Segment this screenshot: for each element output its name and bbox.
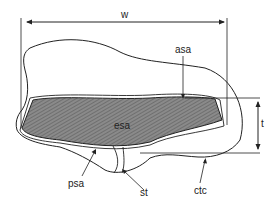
diagram-canvas: w asa esa t psa st ctc [0, 0, 278, 207]
cross-section-diagram: w asa esa t psa st ctc [0, 0, 278, 207]
width-label: w [120, 9, 129, 20]
stalk-label: st [140, 187, 148, 198]
anterior-label: asa [175, 44, 192, 55]
outer-label: ctc [194, 185, 207, 196]
thickness-label: t [261, 118, 264, 129]
stalk [113, 146, 124, 173]
posterior-label: psa [68, 178, 85, 189]
center-label: esa [114, 120, 131, 131]
